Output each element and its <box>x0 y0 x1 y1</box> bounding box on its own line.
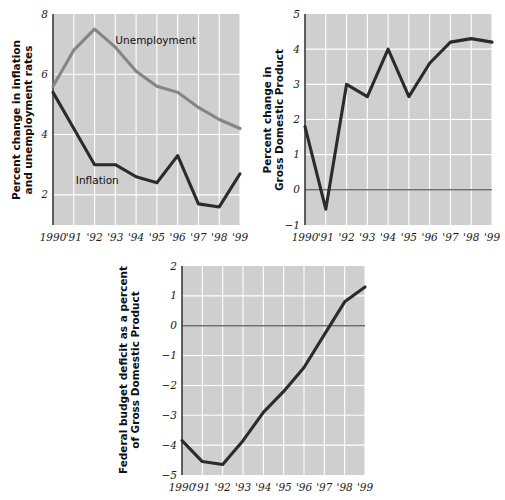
x-tick-label: '95 <box>276 481 293 493</box>
y-tick-label: −4 <box>162 439 177 451</box>
x-tick-label: 1990 <box>169 481 196 493</box>
x-tick-label: '99 <box>232 231 249 243</box>
y-axis-title-line: Gross Domestic Product <box>273 49 285 191</box>
x-tick-label: '98 <box>337 481 354 493</box>
series-annotation-unemployment: Unemployment <box>115 34 196 46</box>
y-axis-title-line: Percent change in <box>261 66 273 173</box>
y-tick-label: −1 <box>162 349 177 361</box>
x-tick-label: '91 <box>66 231 82 243</box>
x-tick-label: '98 <box>211 231 228 243</box>
x-tick-label: '96 <box>422 231 439 243</box>
y-axis-title-line: of Gross Domestic Product <box>129 291 141 449</box>
plot-background <box>182 266 365 475</box>
x-tick-label: '92 <box>215 481 232 493</box>
x-tick-label: '91 <box>194 481 210 493</box>
x-tick-label: '94 <box>128 231 144 243</box>
chart-svg-inflation-unemployment: 24681990'91'92'93'94'95'96'97'98'99Perce… <box>0 0 258 250</box>
x-tick-labels: 1990'91'92'93'94'95'96'97'98'99 <box>292 231 501 243</box>
y-tick-label: 5 <box>293 8 300 20</box>
y-axis-title-line: and unemployment rates <box>22 46 34 195</box>
y-tick-label: 1 <box>293 148 300 160</box>
y-axis-title: Percent change inGross Domestic Product <box>261 49 286 191</box>
y-tick-label: 8 <box>41 8 48 20</box>
x-tick-label: '92 <box>86 231 103 243</box>
x-tick-label: '94 <box>380 231 396 243</box>
y-tick-label: −5 <box>162 469 178 481</box>
y-axis-title-line: Federal budget deficit as a percent <box>117 266 129 474</box>
y-tick-label: 0 <box>293 183 300 195</box>
y-axis-title: Percent change in inflationand unemploym… <box>10 40 35 200</box>
x-tick-label: '93 <box>359 231 376 243</box>
x-tick-label: '93 <box>107 231 124 243</box>
x-tick-label: '92 <box>338 231 355 243</box>
chart-inflation-unemployment: 24681990'91'92'93'94'95'96'97'98'99Perce… <box>0 0 258 250</box>
chart-gdp-percent-change: −10123451990'91'92'93'94'95'96'97'98'99P… <box>255 0 505 250</box>
x-tick-label: '93 <box>235 481 252 493</box>
y-tick-label: 6 <box>41 68 48 80</box>
y-axis-title-line: Percent change in inflation <box>10 40 22 200</box>
x-tick-label: '96 <box>296 481 313 493</box>
x-tick-label: 1990 <box>292 231 319 243</box>
y-tick-labels: 2468 <box>40 8 48 201</box>
x-tick-labels: 1990'91'92'93'94'95'96'97'98'99 <box>40 231 249 243</box>
y-tick-label: 2 <box>40 188 48 200</box>
y-axis-title: Federal budget deficit as a percentof Gr… <box>117 266 142 474</box>
y-tick-label: 4 <box>40 128 48 140</box>
chart-federal-budget-deficit: −5−4−3−2−10121990'91'92'93'94'95'96'97'9… <box>110 252 395 500</box>
x-tick-label: '99 <box>357 481 374 493</box>
x-tick-label: '95 <box>401 231 418 243</box>
x-tick-label: '96 <box>170 231 187 243</box>
y-tick-labels: −5−4−3−2−1012 <box>162 260 178 481</box>
series-annotation-inflation: Inflation <box>76 174 119 186</box>
x-tick-label: '91 <box>318 231 334 243</box>
x-tick-label: '97 <box>442 231 459 243</box>
chart-svg-gdp-percent-change: −10123451990'91'92'93'94'95'96'97'98'99P… <box>255 0 505 250</box>
x-tick-label: '97 <box>190 231 207 243</box>
y-tick-label: −3 <box>162 409 178 421</box>
y-tick-label: 0 <box>170 319 177 331</box>
y-tick-label: 2 <box>292 113 300 125</box>
x-tick-labels: 1990'91'92'93'94'95'96'97'98'99 <box>169 481 374 493</box>
chart-svg-federal-budget-deficit: −5−4−3−2−10121990'91'92'93'94'95'96'97'9… <box>110 252 395 500</box>
x-tick-label: '95 <box>149 231 166 243</box>
y-tick-label: 1 <box>170 289 177 301</box>
x-tick-label: '99 <box>484 231 501 243</box>
y-tick-label: −2 <box>162 379 178 391</box>
y-tick-label: 3 <box>293 78 300 90</box>
x-tick-label: '97 <box>316 481 333 493</box>
x-tick-label: 1990 <box>40 231 67 243</box>
x-tick-label: '94 <box>255 481 271 493</box>
y-tick-labels: −1012345 <box>285 8 301 231</box>
y-tick-label: 4 <box>292 43 300 55</box>
y-tick-label: 2 <box>169 260 177 272</box>
x-tick-label: '98 <box>463 231 480 243</box>
y-tick-label: −1 <box>285 219 300 231</box>
